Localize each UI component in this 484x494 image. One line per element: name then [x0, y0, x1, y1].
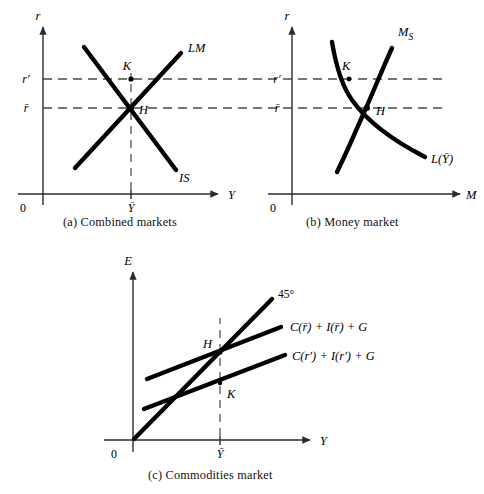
- panel-c-curve-expenditure-rprime: [144, 355, 285, 409]
- panel-c-point-label-h: H: [202, 337, 213, 351]
- panel-c-x-axis-label: Y: [320, 434, 329, 448]
- panel-a-point-label-h: H: [138, 103, 149, 117]
- panel-b-tick-label-r-prime: r′: [273, 72, 281, 86]
- panel-a-tick-label-y-bar: Ȳ: [128, 201, 136, 215]
- panel-a-curve-label-lm: LM: [187, 41, 206, 55]
- panel-b-tick-label-r-bar: r̄: [275, 101, 280, 115]
- panel-a-tick-label-r-prime: r′: [22, 72, 30, 86]
- panel-b-money-market: [268, 27, 460, 205]
- panel-c-point-h: [217, 349, 222, 354]
- panel-b-y-axis-label: r: [285, 9, 290, 23]
- panel-b-curve-label-liquidity-preference: L(Ȳ): [430, 152, 453, 166]
- panel-a-point-label-k: K: [122, 59, 132, 73]
- panel-c-curve-label-45-degree: 45°: [278, 288, 295, 300]
- panel-a-tick-label-r-bar: r̄: [24, 101, 29, 115]
- panel-b-origin-label: 0: [270, 201, 276, 215]
- panel-b-caption: (b) Money market: [306, 215, 399, 230]
- panel-a-caption: (a) Combined markets: [63, 215, 177, 230]
- panel-b-point-k: [347, 77, 352, 82]
- panel-c-curve-label-expenditure-rprime: C(r′) + I(r′) + G: [292, 349, 375, 363]
- panel-a-y-axis-label: r: [36, 9, 41, 23]
- panel-c-caption: (c) Commodities market: [148, 468, 273, 483]
- panel-b-point-h: [364, 105, 370, 111]
- panel-c-tick-label-y-bar: Ȳ: [217, 447, 225, 461]
- panel-b-point-label-k: K: [341, 59, 351, 73]
- panel-c-curve-expenditure-rbar: [147, 327, 281, 379]
- figure-canvas: r Y 0 r′ r̄ Ȳ LM IS K H r M 0 r′ r̄ K H…: [0, 0, 484, 494]
- panel-a-x-axis-label: Y: [228, 188, 237, 202]
- panel-a-point-h: [128, 105, 134, 111]
- panel-c-point-k: [218, 381, 222, 385]
- panel-b-x-axis-label: M: [465, 188, 477, 202]
- panel-c-point-label-k: K: [226, 387, 236, 401]
- panel-a-point-k: [128, 76, 133, 81]
- panel-c-curve-label-expenditure-rbar: C(r̄) + I(r̄) + G: [290, 320, 367, 334]
- panel-b-point-label-h: H: [375, 104, 386, 118]
- panel-c-origin-label: 0: [111, 447, 117, 461]
- panel-a-curve-label-is: IS: [178, 171, 190, 185]
- figure-svg: r Y 0 r′ r̄ Ȳ LM IS K H r M 0 r′ r̄ K H…: [0, 0, 484, 494]
- panel-c-y-axis-label: E: [123, 254, 132, 268]
- panel-a-origin-label: 0: [20, 201, 26, 215]
- panel-b-curve-label-money-supply: MS: [397, 25, 413, 42]
